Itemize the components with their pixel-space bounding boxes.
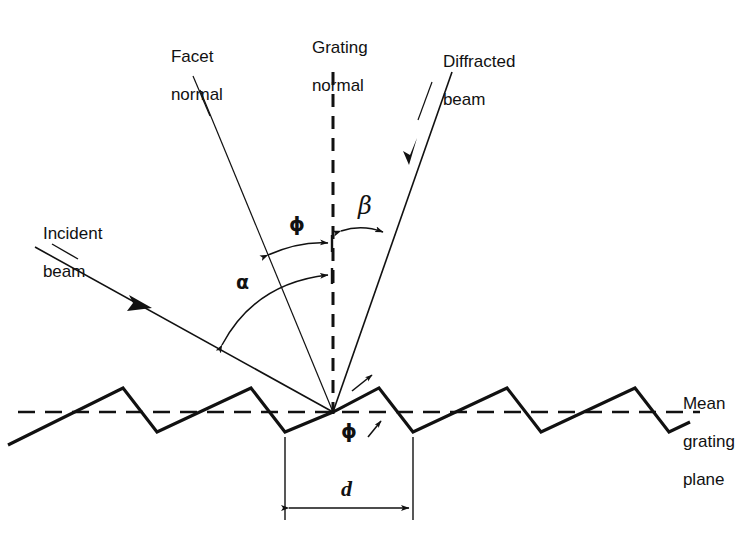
grating-normal-line-2: normal [312,76,364,95]
incident-beam-line-1: Incident [43,224,103,243]
beta-angle-arc [341,228,383,232]
symbol-phi-lower: ϕ [341,419,357,443]
mean-grating-plane-line-2: grating [683,432,735,451]
label-incident-beam: Incident beam [24,205,102,300]
phi-upper-angle-arc [268,235,332,255]
incident-beam-line-2: beam [43,262,86,281]
label-facet-normal: Facet normal [152,28,223,123]
label-diffracted-beam: Diffracted beam [424,33,515,128]
facet-normal-line-1: Facet [171,47,214,66]
diffracted-beam-line-1: Diffracted [443,52,515,71]
grating-normal-line-1: Grating [312,38,368,57]
facet-normal-line [200,90,333,412]
symbol-alpha: α [236,271,249,293]
diffracted-beam-line-2: beam [443,90,486,109]
label-grating-normal: Grating normal [293,19,368,114]
symbol-beta: β [358,192,372,220]
facet-normal-line-2: normal [171,85,223,104]
symbol-phi-upper: ϕ [289,212,305,236]
symbol-groove-spacing-d: d [341,476,352,502]
diagram-canvas [0,0,753,541]
mean-grating-plane-line-3: plane [683,470,725,489]
label-mean-grating-plane: Mean grating plane [664,375,735,508]
mean-grating-plane-line-1: Mean [683,394,726,413]
grating-diagram: Facet normal Grating normal Diffracted b… [0,0,753,541]
